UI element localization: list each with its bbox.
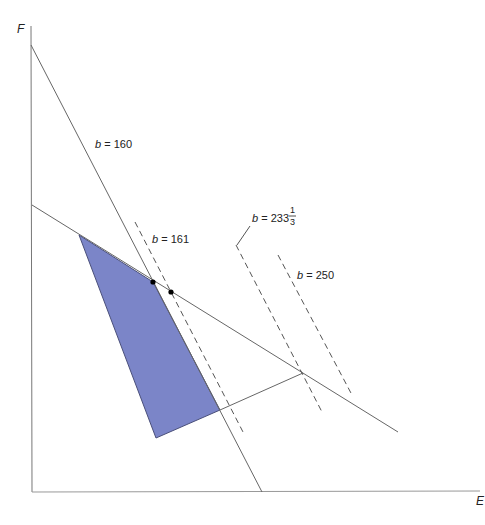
e-axis [32, 491, 480, 492]
label-b233: b = 233 [252, 212, 289, 224]
f-axis-label: F [17, 22, 25, 36]
label-b250: b = 250 [297, 269, 334, 281]
constraint-line-b160 [31, 45, 262, 492]
label-b233-frac-den: 3 [290, 217, 295, 227]
constraint-line-lower [220, 373, 303, 410]
f-axis [31, 26, 32, 492]
optimal-point-b161 [168, 289, 173, 294]
optimal-point-b160 [150, 279, 155, 284]
feasible-region [79, 235, 220, 438]
label-b160: b = 160 [95, 138, 132, 150]
e-axis-label: E [476, 494, 485, 508]
label-b233-frac-num: 1 [290, 205, 295, 215]
linear-program-diagram: F E b = 160 b = 161 b = 233 1 3 b = 250 [0, 0, 485, 525]
label-b161: b = 161 [152, 233, 189, 245]
label-leader-b233 [237, 226, 250, 245]
constraint-line-shallow [32, 205, 398, 432]
